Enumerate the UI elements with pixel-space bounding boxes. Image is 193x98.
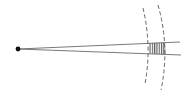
inner-arc <box>143 8 148 84</box>
diagram-canvas <box>0 0 193 98</box>
source-point-dot <box>16 47 21 52</box>
hatched-region <box>149 43 166 55</box>
